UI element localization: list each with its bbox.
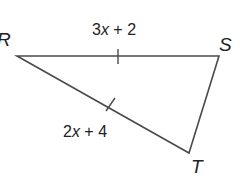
side-rs-coef: 3 [92, 21, 101, 38]
triangle-rst [17, 56, 219, 153]
side-rs-var: x [101, 21, 109, 38]
side-rs-rest: + 2 [109, 21, 136, 38]
side-rt-rest: + 4 [80, 123, 107, 140]
side-label-rs: 3x + 2 [92, 22, 136, 38]
vertex-label-t: T [191, 157, 203, 176]
vertex-label-r: R [0, 30, 11, 49]
side-rt-coef: 2 [63, 123, 72, 140]
vertex-label-s: S [219, 35, 232, 54]
triangle-diagram: R S T 3x + 2 2x + 4 [0, 0, 245, 179]
side-rt-var: x [72, 123, 80, 140]
side-label-rt: 2x + 4 [63, 124, 107, 140]
